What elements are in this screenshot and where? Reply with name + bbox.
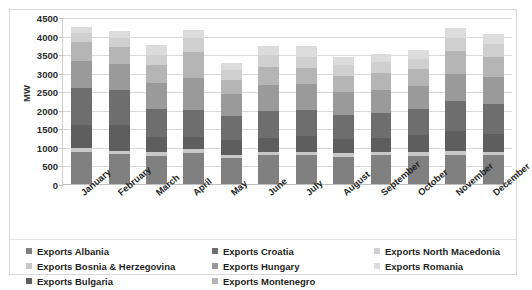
bar-segment[interactable] [483,57,504,77]
bar-segment[interactable] [371,90,392,113]
bar-segment[interactable] [333,65,354,76]
legend-item[interactable]: Exports Croatia [212,244,294,258]
stacked-bar[interactable] [146,45,167,185]
bar-segment[interactable] [258,85,279,111]
bar-segment[interactable] [445,155,466,185]
bar-group[interactable] [475,18,512,185]
bar-segment[interactable] [296,68,317,85]
bar-segment[interactable] [258,55,279,67]
bar-segment[interactable] [221,63,242,70]
bar-segment[interactable] [221,116,242,139]
bar-group[interactable] [325,18,362,185]
bar-segment[interactable] [408,135,429,152]
bar-segment[interactable] [183,38,204,53]
bar-segment[interactable] [109,125,130,151]
bar-segment[interactable] [183,137,204,149]
bar-segment[interactable] [296,110,317,136]
bar-group[interactable] [138,18,175,185]
bar-segment[interactable] [408,86,429,109]
bar-segment[interactable] [221,80,242,95]
legend-item[interactable]: Exports Bosnia & Herzegovina [26,259,175,273]
stacked-bar[interactable] [371,54,392,185]
bar-segment[interactable] [483,34,504,45]
bar-segment[interactable] [445,28,466,38]
bar-group[interactable] [288,18,325,185]
bar-segment[interactable] [258,138,279,152]
bar-segment[interactable] [221,140,242,155]
legend-item[interactable]: Exports Hungary [212,259,300,273]
legend-item[interactable]: Exports Albania [26,244,109,258]
bar-segment[interactable] [483,134,504,152]
legend-item[interactable]: Exports North Macedonia [374,244,500,258]
bar-segment[interactable] [483,77,504,104]
bar-segment[interactable] [296,84,317,110]
bar-segment[interactable] [146,55,167,66]
bar-segment[interactable] [296,46,317,57]
bar-segment[interactable] [109,90,130,125]
bar-group[interactable] [63,18,100,185]
bar-segment[interactable] [371,62,392,74]
bar-segment[interactable] [483,104,504,134]
bar-segment[interactable] [146,65,167,83]
stacked-bar[interactable] [221,63,242,185]
bar-segment[interactable] [71,88,92,125]
legend-item[interactable]: Exports Bulgaria [26,274,113,288]
bar-segment[interactable] [445,38,466,51]
bar-segment[interactable] [371,73,392,89]
bar-segment[interactable] [296,136,317,152]
bar-segment[interactable] [408,69,429,86]
bar-segment[interactable] [183,52,204,78]
bar-segment[interactable] [408,109,429,136]
bar-segment[interactable] [221,70,242,80]
bar-segment[interactable] [371,138,392,152]
bar-segment[interactable] [221,94,242,116]
bar-group[interactable] [100,18,137,185]
bar-segment[interactable] [258,111,279,138]
bar-segment[interactable] [445,51,466,73]
bar-segment[interactable] [109,47,130,64]
bar-segment[interactable] [408,59,429,69]
legend-item[interactable]: Exports Romania [374,259,463,273]
bar-segment[interactable] [258,67,279,86]
bar-group[interactable] [400,18,437,185]
stacked-bar[interactable] [258,46,279,185]
stacked-bar[interactable] [183,30,204,185]
bar-segment[interactable] [183,110,204,138]
bar-segment[interactable] [109,38,130,47]
bar-segment[interactable] [333,92,354,115]
stacked-bar[interactable] [333,57,354,185]
bar-segment[interactable] [296,57,317,68]
bar-group[interactable] [175,18,212,185]
bar-segment[interactable] [109,31,130,38]
bar-segment[interactable] [445,131,466,150]
bar-group[interactable] [250,18,287,185]
bar-segment[interactable] [71,61,92,88]
bar-segment[interactable] [146,45,167,55]
stacked-bar[interactable] [109,31,130,185]
bar-segment[interactable] [408,50,429,59]
bar-segment[interactable] [445,74,466,101]
stacked-bar[interactable] [445,28,466,185]
bar-segment[interactable] [258,46,279,55]
bar-segment[interactable] [183,78,204,109]
bar-segment[interactable] [333,57,354,65]
bar-segment[interactable] [183,30,204,37]
legend-item[interactable]: Exports Montenegro [212,274,315,288]
bar-group[interactable] [362,18,399,185]
bar-segment[interactable] [333,139,354,153]
bar-segment[interactable] [109,64,130,90]
bar-segment[interactable] [333,76,354,92]
bar-segment[interactable] [146,137,167,152]
bar-segment[interactable] [445,101,466,132]
bar-segment[interactable] [483,44,504,57]
bar-group[interactable] [213,18,250,185]
bar-segment[interactable] [146,83,167,109]
bar-segment[interactable] [71,33,92,42]
bar-segment[interactable] [146,109,167,138]
stacked-bar[interactable] [71,27,92,185]
bar-segment[interactable] [71,125,92,147]
bar-segment[interactable] [71,42,92,61]
bar-group[interactable] [437,18,474,185]
stacked-bar[interactable] [296,46,317,185]
bar-segment[interactable] [333,115,354,139]
